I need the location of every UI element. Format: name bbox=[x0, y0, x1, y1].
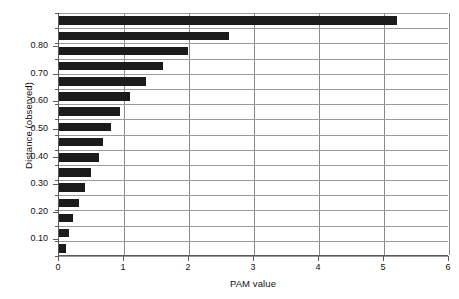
bar-row bbox=[59, 195, 449, 210]
bar bbox=[59, 199, 79, 208]
y-tick-label: 0.50 bbox=[4, 123, 48, 133]
bar bbox=[59, 244, 66, 253]
y-tick-label: 0.70 bbox=[4, 68, 48, 78]
bar bbox=[59, 214, 73, 223]
bar-row bbox=[59, 28, 449, 43]
bar-row bbox=[59, 119, 449, 134]
bar-row bbox=[59, 180, 449, 195]
bar bbox=[59, 229, 69, 238]
bar-row bbox=[59, 13, 449, 28]
x-tick-mark bbox=[448, 256, 449, 261]
bar bbox=[59, 32, 229, 41]
bar bbox=[59, 107, 120, 116]
bar-row bbox=[59, 59, 449, 74]
bar bbox=[59, 168, 91, 177]
y-tick-label: 0.80 bbox=[4, 40, 48, 50]
x-tick-label: 4 bbox=[303, 262, 333, 272]
bar bbox=[59, 92, 130, 101]
bar bbox=[59, 138, 103, 147]
vertical-gridline bbox=[449, 13, 450, 255]
y-tick-label: 0.10 bbox=[4, 233, 48, 243]
bar-row bbox=[59, 74, 449, 89]
bar bbox=[59, 183, 85, 192]
bar-row bbox=[59, 241, 449, 256]
x-tick-label: 5 bbox=[368, 262, 398, 272]
bar bbox=[59, 16, 397, 25]
x-tick-mark bbox=[58, 256, 59, 261]
bar-row bbox=[59, 165, 449, 180]
bar bbox=[59, 62, 163, 71]
y-tick-label: 0.30 bbox=[4, 178, 48, 188]
bar bbox=[59, 153, 99, 162]
bar bbox=[59, 47, 188, 56]
x-tick-label: 6 bbox=[433, 262, 459, 272]
x-tick-label: 1 bbox=[108, 262, 138, 272]
x-tick-mark bbox=[188, 256, 189, 261]
bar-row bbox=[59, 43, 449, 58]
x-tick-mark bbox=[123, 256, 124, 261]
plot-area bbox=[58, 13, 448, 256]
bar bbox=[59, 77, 146, 86]
x-axis-title: PAM value bbox=[58, 278, 448, 289]
x-tick-label: 3 bbox=[238, 262, 268, 272]
x-tick-mark bbox=[253, 256, 254, 261]
bar-row bbox=[59, 226, 449, 241]
bar-row bbox=[59, 104, 449, 119]
x-tick-mark bbox=[383, 256, 384, 261]
bar bbox=[59, 123, 111, 132]
y-tick-label: 0.20 bbox=[4, 206, 48, 216]
x-tick-label: 2 bbox=[173, 262, 203, 272]
bar-row bbox=[59, 135, 449, 150]
bar-row bbox=[59, 210, 449, 225]
bar-row bbox=[59, 150, 449, 165]
y-tick-label: 0.60 bbox=[4, 95, 48, 105]
x-tick-label: 0 bbox=[43, 262, 73, 272]
y-tick-label: 0.40 bbox=[4, 151, 48, 161]
x-tick-mark bbox=[318, 256, 319, 261]
bar-row bbox=[59, 89, 449, 104]
bar-chart: Distance (observed) 0.100.200.300.400.50… bbox=[0, 0, 459, 299]
